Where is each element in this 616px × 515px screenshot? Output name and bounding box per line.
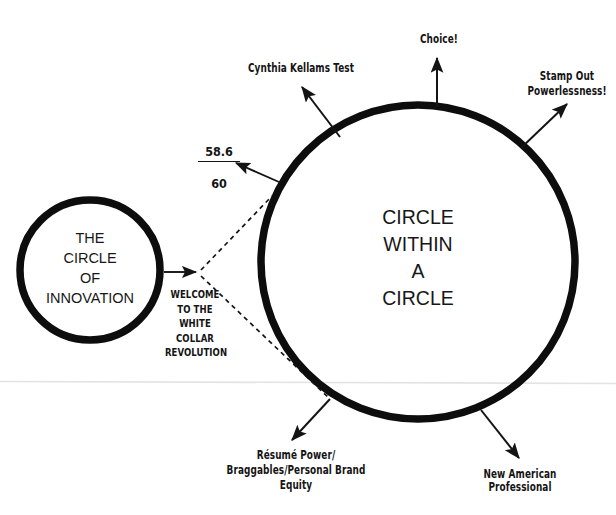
diagram-canvas: THE CIRCLE OF INNOVATION CIRCLE WITHIN A… xyxy=(0,0,616,515)
ratio-denominator: 60 xyxy=(198,176,240,191)
ratio-label: 58.6 60 xyxy=(198,131,240,206)
callout-arrow-cynthia xyxy=(302,87,340,137)
annotation-new-american-professional: New American Professional xyxy=(451,468,589,494)
annotation-stamp-out-powerlessness: Stamp Out Powerlessness! xyxy=(525,69,609,99)
annotation-resume-power: Résumé Power/ Braggables/Personal Brand … xyxy=(210,448,382,494)
transition-label: WELCOME TO THE WHITE COLLAR REVOLUTION xyxy=(165,288,225,361)
ratio-callout-arrow xyxy=(236,163,279,182)
callout-arrow-stamp xyxy=(521,104,567,148)
callout-arrow-resume xyxy=(292,399,330,440)
inner-circle-label: THE CIRCLE OF INNOVATION xyxy=(15,228,165,308)
outer-circle-label: CIRCLE WITHIN A CIRCLE xyxy=(318,204,518,312)
annotation-cynthia-kellams-test: Cynthia Kellams Test xyxy=(248,62,360,75)
ratio-numerator: 58.6 xyxy=(198,145,240,161)
annotation-choice: Choice! xyxy=(409,33,469,46)
callout-arrow-newamerican xyxy=(481,410,519,458)
